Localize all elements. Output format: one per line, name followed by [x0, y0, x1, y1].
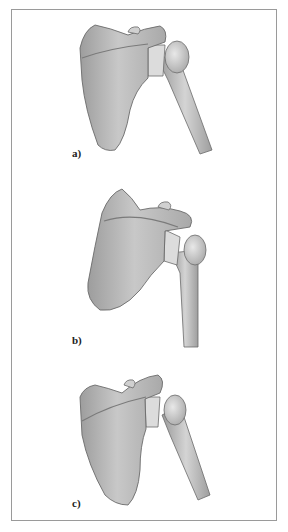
panel-label-a: a) [72, 147, 81, 159]
humerus-shaft [162, 411, 210, 500]
scapula-humerus-illustration-a [0, 0, 288, 170]
humerus-shaft [158, 56, 212, 154]
humeral-head [184, 235, 206, 265]
scapula-humerus-illustration-b [0, 175, 288, 350]
scapula-body [80, 25, 166, 150]
panel-c: c) [0, 355, 288, 520]
acromion [128, 27, 140, 34]
panel-b: b) [0, 175, 288, 350]
glenoid-joint [164, 230, 180, 265]
humerus-shaft [172, 251, 198, 347]
humeral-head [164, 395, 186, 425]
panel-a: a) [0, 0, 288, 170]
humeral-head [165, 41, 189, 73]
panel-label-c: c) [72, 497, 81, 509]
acromion [124, 380, 135, 388]
scapula-body [80, 375, 163, 505]
panel-label-b: b) [72, 334, 82, 346]
glenoid-joint [145, 397, 160, 427]
scapula-humerus-illustration-c [0, 355, 288, 520]
glenoid-joint [148, 45, 165, 76]
